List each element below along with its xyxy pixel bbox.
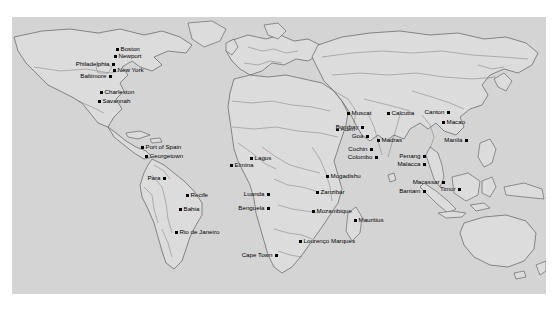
city-dot-icon — [442, 181, 445, 184]
city-label: Calcutta — [392, 110, 415, 116]
city-dot-icon — [275, 254, 278, 257]
city-dot-icon — [113, 69, 116, 72]
city-dot-icon — [442, 121, 445, 124]
city-label: Goa — [352, 133, 364, 139]
island-java — [438, 211, 466, 218]
city-label: Baltimore — [80, 73, 106, 79]
city-dot-icon — [175, 231, 178, 234]
island-new-guinea — [504, 183, 544, 199]
island-cuba — [126, 131, 150, 139]
island-new-zealand — [536, 261, 546, 275]
city-label: Bombay — [336, 124, 359, 130]
city-dot-icon — [387, 112, 390, 115]
city-label: Cape Town — [242, 252, 273, 258]
city-label: Lourenço Marques — [304, 238, 356, 244]
landmass-australia — [460, 215, 536, 267]
city-dot-icon — [312, 210, 315, 213]
city-label: Bantam — [399, 188, 420, 194]
city-label: Malacca — [397, 161, 420, 167]
island-borneo — [452, 173, 480, 201]
city-label: Timor — [440, 186, 456, 192]
city-dot-icon — [267, 207, 270, 210]
city-label: Macassar — [413, 179, 440, 185]
city-label: Para — [147, 175, 160, 181]
city-dot-icon — [116, 48, 119, 51]
city-label: Penang — [399, 153, 420, 159]
city-dot-icon — [141, 146, 144, 149]
city-label: Savannah — [103, 98, 131, 104]
city-label: Port of Spain — [146, 144, 182, 150]
city-dot-icon — [267, 193, 270, 196]
island-greenland — [188, 21, 226, 47]
city-label: New York — [118, 67, 144, 73]
city-label: Boston — [121, 46, 140, 52]
world-map-panel: BostonNewportPhiladelphiaNew YorkBaltimo… — [12, 17, 546, 294]
city-label: Muscat — [352, 110, 372, 116]
city-dot-icon — [250, 157, 253, 160]
island-timor — [470, 203, 490, 211]
city-label: Lagos — [255, 155, 272, 161]
city-label: Newport — [119, 53, 142, 59]
city-dot-icon — [377, 139, 380, 142]
city-dot-icon — [366, 135, 369, 138]
city-label: Zanzibar — [321, 189, 345, 195]
city-label: Philadelphia — [76, 61, 110, 67]
city-dot-icon — [423, 190, 426, 193]
city-dot-icon — [354, 219, 357, 222]
city-label: Rio de Janeiro — [180, 229, 220, 235]
city-dot-icon — [145, 155, 148, 158]
city-dot-icon — [447, 111, 450, 114]
city-dot-icon — [347, 112, 350, 115]
city-dot-icon — [230, 164, 233, 167]
city-label: Bahia — [184, 206, 200, 212]
island-sulawesi — [482, 177, 496, 197]
city-dot-icon — [186, 194, 189, 197]
city-label: Mogadishu — [331, 173, 361, 179]
city-dot-icon — [163, 177, 166, 180]
city-dot-icon — [179, 208, 182, 211]
city-dot-icon — [299, 240, 302, 243]
city-label: Cochin — [348, 146, 367, 152]
landmass-europe — [226, 35, 320, 75]
city-dot-icon — [370, 148, 373, 151]
city-label: Macao — [447, 119, 466, 125]
city-dot-icon — [316, 191, 319, 194]
city-dot-icon — [375, 156, 378, 159]
island-philippines — [478, 139, 496, 167]
island-japan — [494, 73, 512, 91]
city-label: Mauritius — [359, 217, 384, 223]
island-tasmania — [514, 271, 526, 279]
city-dot-icon — [98, 100, 101, 103]
screenshot-root: BostonNewportPhiladelphiaNew YorkBaltimo… — [0, 0, 560, 314]
city-label: Colombo — [348, 154, 373, 160]
city-dot-icon — [361, 126, 364, 129]
city-dot-icon — [114, 55, 117, 58]
island-sri-lanka — [388, 173, 396, 182]
world-map-graphic — [12, 17, 546, 294]
city-label: Mozambique — [317, 208, 352, 214]
city-label: Benguela — [238, 205, 264, 211]
city-dot-icon — [100, 91, 103, 94]
city-dot-icon — [423, 163, 426, 166]
city-dot-icon — [458, 188, 461, 191]
city-label: Canton — [425, 109, 445, 115]
city-dot-icon — [112, 63, 115, 66]
city-dot-icon — [326, 175, 329, 178]
city-label: Luanda — [244, 191, 265, 197]
city-dot-icon — [465, 139, 468, 142]
city-label: Manila — [444, 137, 462, 143]
city-dot-icon — [423, 155, 426, 158]
city-label: Georgetown — [150, 153, 184, 159]
city-label: Madras — [382, 137, 403, 143]
city-label: Charleston — [105, 89, 135, 95]
city-label: Recife — [191, 192, 209, 198]
city-dot-icon — [109, 75, 112, 78]
city-label: Elmina — [235, 162, 254, 168]
